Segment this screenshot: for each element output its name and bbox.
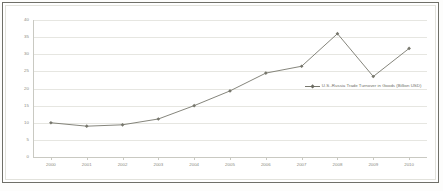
series-layer: [0, 0, 443, 191]
data-point-marker: [192, 104, 196, 108]
series-line: [51, 34, 409, 126]
chart-legend: U.S.-Russia Trade Turnover in Goods (Bil…: [305, 84, 422, 89]
data-point-marker: [121, 123, 125, 127]
data-point-marker: [228, 89, 232, 93]
legend-entry-label: U.S.-Russia Trade Turnover in Goods (Bil…: [322, 84, 422, 88]
data-point-marker: [49, 121, 53, 125]
data-point-marker: [85, 124, 89, 128]
chart-figure: 0510152025303540 20002001200220032004200…: [0, 0, 443, 191]
data-point-marker: [264, 71, 268, 75]
legend-line-marker-icon: [305, 84, 320, 89]
data-point-marker: [157, 117, 161, 121]
